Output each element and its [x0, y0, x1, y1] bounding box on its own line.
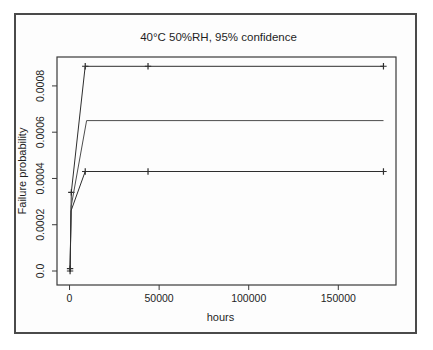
plus-marker-lower-95-bound — [145, 168, 151, 174]
series-line-lower-95-bound — [70, 172, 383, 272]
failure-probability-chart: 0500001000001500000.00.00020.00040.00060… — [0, 0, 433, 350]
x-tick-label: 50000 — [145, 292, 174, 304]
plus-marker-upper-95-bound — [380, 63, 386, 69]
y-tick-label: 0.0004 — [34, 162, 46, 194]
figure-canvas: 0500001000001500000.00.00020.00040.00060… — [0, 0, 433, 350]
y-tick-label: 0.0006 — [34, 116, 46, 148]
x-tick-label: 150000 — [321, 292, 356, 304]
series-line-estimate — [70, 121, 383, 270]
plus-marker-upper-95-bound — [82, 63, 88, 69]
x-axis-label: hours — [207, 311, 235, 323]
plus-marker-upper-95-bound — [145, 63, 151, 69]
y-tick-label: 0.0008 — [34, 70, 46, 102]
x-tick-label: 0 — [67, 292, 73, 304]
x-tick-label: 100000 — [231, 292, 266, 304]
y-tick-label: 0.0 — [34, 264, 46, 279]
y-tick-label: 0.0002 — [34, 209, 46, 241]
series-line-upper-95-bound — [70, 66, 383, 268]
chart-title: 40°C 50%RH, 95% confidence — [140, 31, 297, 43]
y-axis-label: Failure probability — [16, 127, 28, 214]
plus-marker-lower-95-bound — [380, 168, 386, 174]
plus-marker-lower-95-bound — [82, 168, 88, 174]
